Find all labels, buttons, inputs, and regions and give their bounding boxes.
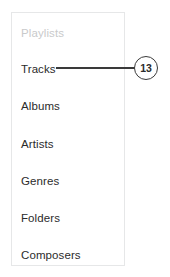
screenshot-root: Playlists Tracks Albums Artists Genres F… — [0, 0, 170, 277]
sidebar-item-albums[interactable]: Albums — [12, 95, 124, 117]
sidebar-item-label: Tracks — [21, 63, 56, 76]
sidebar-item-composers[interactable]: Composers — [12, 244, 124, 266]
sidebar-item-label: Albums — [21, 100, 60, 113]
sidebar-list: Playlists Tracks Albums Artists Genres F… — [12, 13, 124, 265]
sidebar-item-artists[interactable]: Artists — [12, 133, 124, 155]
callout-bubble: 13 — [134, 56, 158, 80]
callout-leader-line — [56, 67, 135, 69]
sidebar-item-genres[interactable]: Genres — [12, 170, 124, 192]
sidebar-item-folders[interactable]: Folders — [12, 207, 124, 229]
callout-number-label: 13 — [140, 63, 151, 74]
sidebar-section-header-label: Playlists — [21, 27, 64, 40]
sidebar-item-label: Genres — [21, 175, 59, 188]
sidebar-item-label: Folders — [21, 212, 60, 225]
sidebar-item-label: Artists — [21, 138, 54, 151]
callout-annotation-13: 13 — [56, 56, 160, 81]
sidebar-item-label: Composers — [21, 249, 81, 262]
sidebar-section-header-playlists: Playlists — [12, 22, 124, 44]
playlists-sidebar-panel: Playlists Tracks Albums Artists Genres F… — [11, 12, 125, 266]
